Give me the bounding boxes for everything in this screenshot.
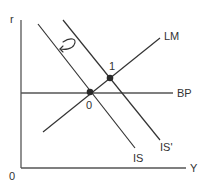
is-label: IS [133,152,143,164]
x-axis-label: Y [190,162,198,174]
point-0-label: 0 [86,99,92,111]
y-axis-label: r [10,13,14,25]
point-1-label: 1 [109,60,115,72]
origin-label: 0 [9,170,15,182]
bp-label: BP [177,87,192,99]
point-0-marker [87,89,94,96]
is-prime-label: IS' [160,141,173,153]
point-1-marker [107,75,114,82]
is-lm-bp-diagram: r Y 0 LM BP IS IS' 0 1 [0,0,214,186]
is-curve [38,24,135,148]
curved-arrow-icon [60,39,75,52]
lm-label: LM [164,30,179,42]
